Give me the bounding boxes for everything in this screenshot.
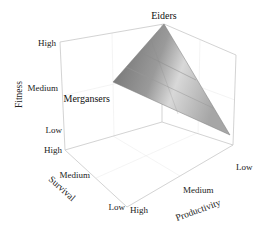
fitness-tick-medium: Medium [28,83,59,93]
productivity-tick-high: High [130,205,149,215]
fitness-surface [113,24,230,135]
productivity-axis-title: Productivity [174,197,222,223]
fitness-tick-high: High [38,38,57,48]
productivity-tick-low: Low [236,162,253,172]
point-label-mergansers: Mergansers [64,93,111,104]
productivity-tick-medium: Medium [183,185,214,195]
fitness-axis-title: Fitness [14,81,24,108]
3d-surface-chart: Eiders Mergansers High Medium Low Fitnes… [0,0,263,236]
survival-tick-high: High [44,145,63,155]
fitness-tick-low: Low [46,125,63,135]
point-label-eiders: Eiders [151,10,177,21]
survival-tick-medium: Medium [60,170,91,180]
survival-tick-low: Low [109,202,126,212]
